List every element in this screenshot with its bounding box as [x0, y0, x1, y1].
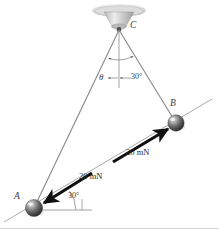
sphere-b-highlight	[170, 118, 175, 121]
angle-label-thirty-at-c: 30°	[131, 73, 142, 81]
sphere-a[interactable]	[25, 199, 42, 216]
sphere-b[interactable]	[168, 115, 184, 131]
sphere-a-highlight	[28, 202, 33, 206]
theta-angle-arc	[109, 58, 119, 60]
sphere-a-group[interactable]	[25, 199, 44, 216]
figure-canvas: C B A θ 30° 30° 20 mN 20 mN	[0, 0, 219, 234]
sphere-b-group[interactable]	[168, 115, 186, 131]
thirty-degree-arc-at-c	[119, 56, 133, 60]
point-label-b: B	[170, 99, 176, 109]
mechanics-diagram-svg	[0, 0, 219, 234]
force-arrow-at-b[interactable]	[113, 129, 168, 162]
cord-CB	[119, 30, 176, 123]
point-label-c: C	[130, 21, 136, 31]
angle-label-thirty-at-a: 30°	[68, 192, 79, 200]
force-label-at-b: 20 mN	[126, 148, 149, 157]
ceiling-mount-assembly	[92, 4, 146, 32]
point-label-a: A	[14, 192, 20, 202]
force-label-at-a: 20 mN	[79, 172, 102, 181]
angle-label-theta: θ	[99, 73, 103, 82]
